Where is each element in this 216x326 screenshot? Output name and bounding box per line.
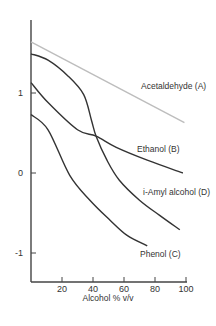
series-label-i-amyl-alcohol-d: i-Amyl alcohol (D)	[143, 187, 210, 197]
x-ticks: 20406080100	[57, 277, 194, 294]
x-tick-label: 80	[150, 284, 160, 294]
chart: 10-1 20406080100 Acetaldehyde (A)Ethanol…	[0, 0, 216, 326]
y-tick-label: -1	[15, 248, 23, 258]
x-axis-title: Alcohol % v/v	[82, 293, 134, 303]
series-label-ethanol-b: Ethanol (B)	[137, 144, 180, 154]
y-ticks: 10-1	[15, 88, 36, 258]
y-tick-label: 1	[18, 88, 23, 98]
x-tick-label: 100	[178, 284, 193, 294]
series-label-phenol-c: Phenol (C)	[140, 249, 181, 259]
y-tick-label: 0	[18, 168, 23, 178]
x-tick-label: 20	[57, 284, 67, 294]
series-label-acetaldehyde-a: Acetaldehyde (A)	[141, 81, 206, 91]
